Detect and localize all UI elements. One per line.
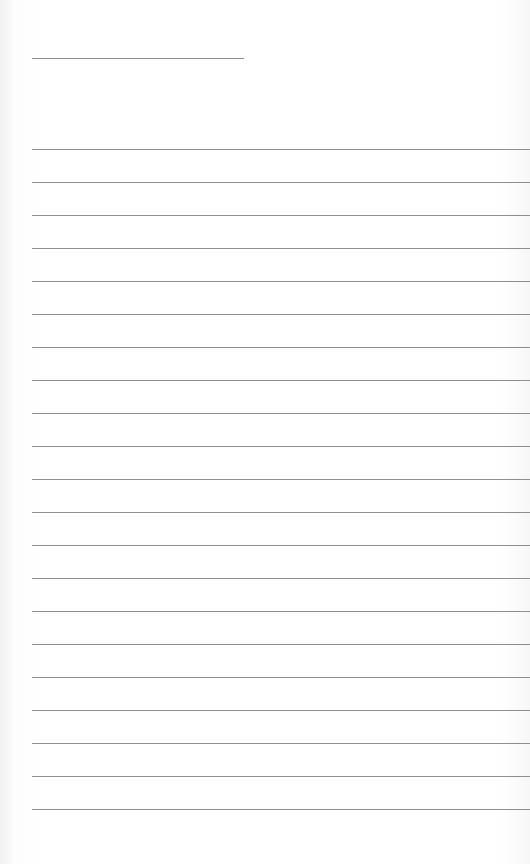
ruled-line: [32, 809, 530, 810]
ruled-line: [32, 677, 530, 678]
ruled-line: [32, 545, 530, 546]
name-line: [32, 58, 244, 59]
ruled-line: [32, 578, 530, 579]
lined-paper: [0, 0, 530, 864]
ruled-line: [32, 446, 530, 447]
ruled-line: [32, 182, 530, 183]
ruled-line: [32, 281, 530, 282]
ruled-line: [32, 743, 530, 744]
ruled-line: [32, 710, 530, 711]
ruled-line: [32, 479, 530, 480]
ruled-line: [32, 347, 530, 348]
ruled-line: [32, 215, 530, 216]
ruled-line: [32, 248, 530, 249]
ruled-line: [32, 512, 530, 513]
ruled-line: [32, 380, 530, 381]
ruled-line: [32, 776, 530, 777]
ruled-line: [32, 611, 530, 612]
ruled-line: [32, 413, 530, 414]
ruled-line: [32, 149, 530, 150]
ruled-line: [32, 314, 530, 315]
ruled-line: [32, 644, 530, 645]
